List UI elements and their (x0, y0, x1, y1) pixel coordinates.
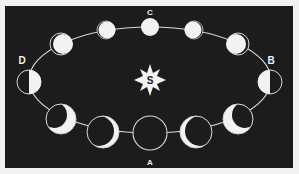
moon-phase-diagram: S A B (5, 6, 293, 168)
label-C: C (147, 8, 153, 17)
sun-star-icon: S (134, 64, 166, 96)
moon-full-C (141, 18, 159, 36)
label-A: A (147, 158, 153, 167)
label-B: B (267, 55, 274, 66)
label-D: D (18, 55, 25, 66)
moon-crescent-thin-left (84, 116, 119, 148)
moon-gibbous-left-1 (97, 21, 116, 39)
moon-new-A (133, 116, 167, 150)
moon-quarter-B (258, 70, 282, 94)
moon-gibbous-right-1 (185, 21, 204, 39)
moon-gibbous-left-2 (50, 33, 73, 55)
sun-label: S (147, 75, 154, 86)
diagram-canvas: S A B (5, 6, 293, 168)
moon-crescent-right (223, 102, 258, 134)
moon-gibbous-right-2 (226, 33, 249, 55)
moon-crescent-thin-right (180, 116, 215, 148)
moon-quarter-D (17, 70, 41, 94)
